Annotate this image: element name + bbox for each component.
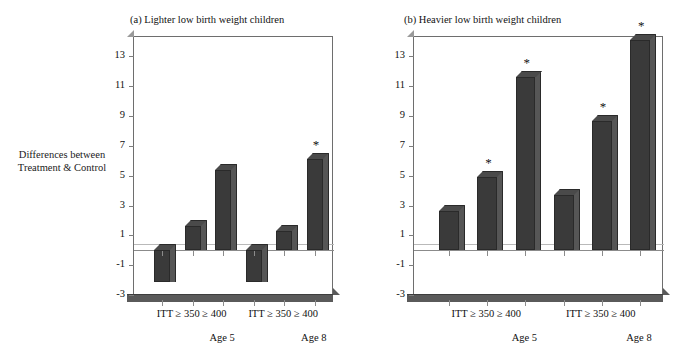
y-axis-tick-label: 3 [103, 200, 125, 211]
y-axis-tick [409, 206, 414, 207]
bar[interactable] [592, 121, 612, 251]
x-axis-tick [525, 300, 526, 306]
y-axis-tick-label: -1 [383, 259, 405, 270]
x-axis-tick [525, 251, 526, 256]
bar[interactable] [307, 159, 323, 250]
significance-marker: * [313, 140, 320, 150]
bar-side-face [497, 171, 503, 250]
plot-floor [127, 294, 333, 302]
bar-side-face [612, 115, 618, 251]
bar-side-face [650, 34, 656, 250]
x-axis-category-label: ITT ≥ 350 ≥ 400 [546, 308, 656, 319]
bar[interactable] [630, 40, 650, 250]
bar[interactable] [185, 226, 201, 250]
bar-front-face [592, 121, 612, 251]
y-axis-tick-label: 1 [103, 229, 125, 240]
figure-root: Differences between Treatment & Control … [0, 0, 680, 362]
y-axis-tick [409, 86, 414, 87]
x-axis-tick [254, 251, 255, 256]
y-axis-tick [409, 56, 414, 57]
y-axis-tick-label: 11 [383, 80, 405, 91]
x-axis-tick [193, 300, 194, 306]
bar-front-face [516, 77, 536, 250]
bar-front-face [630, 40, 650, 250]
bar-side-face [323, 153, 329, 250]
x-axis-tick [223, 300, 224, 306]
bar-front-face [215, 170, 231, 251]
y-axis-tick-label: 7 [383, 140, 405, 151]
y-axis-tick [129, 116, 134, 117]
y-axis-tick-label: 9 [383, 110, 405, 121]
y-axis-tick-label: 5 [103, 170, 125, 181]
x-axis-tick [315, 251, 316, 256]
bar-front-face [554, 195, 574, 250]
bar-side-face [231, 164, 237, 251]
bar[interactable] [215, 170, 231, 251]
bar-side-face [170, 244, 176, 281]
bar[interactable] [516, 77, 536, 250]
bar-front-face [307, 159, 323, 250]
y-axis-tick-label: 3 [383, 200, 405, 211]
y-axis-tick [409, 116, 414, 117]
significance-marker: * [600, 102, 607, 112]
y-axis-tick [129, 176, 134, 177]
y-axis-tick [409, 295, 414, 296]
y-axis-tick-label: 5 [383, 170, 405, 181]
y-axis-tick-label: 13 [383, 50, 405, 61]
y-axis-label-line1: Differences between [6, 148, 118, 161]
bar[interactable] [554, 195, 574, 250]
y-axis-tick-label: 7 [103, 140, 125, 151]
x-axis-tick [315, 300, 316, 306]
plot-depth-corner-icon [407, 30, 414, 37]
x-axis-group-label: Age 8 [284, 332, 344, 343]
x-axis-tick [193, 251, 194, 256]
significance-marker: * [523, 58, 530, 68]
bar-side-face [574, 189, 580, 250]
x-axis-tick [564, 300, 565, 306]
bar-front-face [439, 211, 459, 250]
x-axis-tick [602, 300, 603, 306]
x-axis-tick [254, 300, 255, 306]
x-axis-group-label: Age 5 [192, 332, 252, 343]
x-axis-group-label: Age 5 [494, 332, 554, 343]
y-axis-tick-label: 9 [103, 110, 125, 121]
y-axis-tick-label: 1 [383, 229, 405, 240]
x-axis-category-label: ITT ≥ 350 ≥ 400 [228, 308, 338, 319]
x-axis-category-label: ITT ≥ 350 ≥ 400 [431, 308, 541, 319]
x-axis-tick [640, 251, 641, 256]
bar-front-face [276, 231, 292, 250]
x-axis-tick [487, 251, 488, 256]
bar-front-face [477, 177, 497, 250]
bar-side-face [459, 205, 465, 250]
panel-a-plot-area: * [133, 36, 333, 294]
y-axis-tick [129, 146, 134, 147]
y-axis-tick [409, 146, 414, 147]
y-axis-tick [129, 265, 134, 266]
y-axis-tick [129, 86, 134, 87]
plot-floor-side [663, 288, 670, 295]
significance-marker: * [638, 21, 645, 31]
panel-a-title: (a) Lighter low birth weight children [130, 14, 284, 25]
panel-b-title: (b) Heavier low birth weight children [404, 14, 561, 25]
plot-depth-corner-icon [127, 30, 134, 37]
y-axis-tick [409, 265, 414, 266]
y-axis-label: Differences between Treatment & Control [6, 148, 118, 174]
bar[interactable] [276, 231, 292, 250]
panel-b-plot-area: **** [413, 36, 663, 294]
x-axis-tick [284, 251, 285, 256]
x-axis-tick [284, 300, 285, 306]
bar[interactable] [477, 177, 497, 250]
x-axis-tick [162, 300, 163, 306]
x-axis-tick [487, 300, 488, 306]
bar-front-face [185, 226, 201, 250]
y-axis-tick [129, 206, 134, 207]
y-axis-tick-label: 13 [103, 50, 125, 61]
significance-marker: * [485, 158, 492, 168]
x-axis-tick [602, 251, 603, 256]
plot-floor-side [333, 288, 340, 295]
x-axis-group-label: Age 8 [609, 332, 669, 343]
bar[interactable] [439, 211, 459, 250]
y-axis-tick-label: 11 [103, 80, 125, 91]
x-axis-tick [162, 251, 163, 256]
zero-baseline [414, 250, 664, 251]
